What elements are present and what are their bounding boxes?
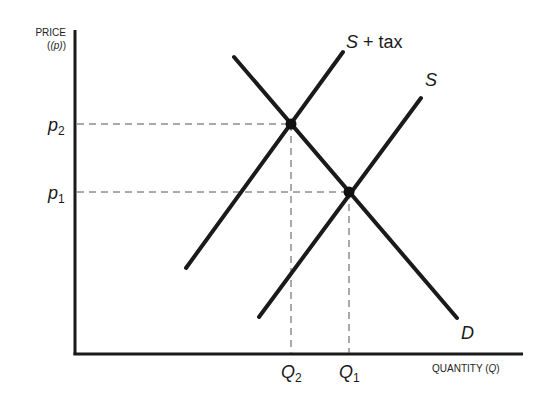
equilibrium-point-before-tax [344,187,355,198]
y-tick-p1: p1 [47,183,65,206]
supply-label: S [425,70,437,90]
y-tick-p2: p2 [47,115,65,138]
supply-demand-chart: PRICE ((p)) QUANTITY (Q) S + tax S D p2 … [0,0,553,402]
supply-plus-tax-label: S + tax [346,32,403,52]
y-axis-label: PRICE [35,27,66,38]
x-tick-q2: Q2 [281,362,302,385]
x-tick-q1: Q1 [339,362,360,385]
equilibrium-point-after-tax [286,119,297,130]
demand-label: D [461,323,474,343]
guide-lines [77,124,349,353]
x-axis-label: QUANTITY (Q) [432,363,500,374]
demand-curve [234,57,457,318]
y-axis-variable: ((p)) [47,40,66,51]
